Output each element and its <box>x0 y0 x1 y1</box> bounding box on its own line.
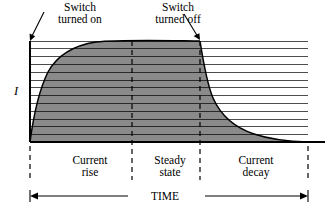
annotation-switch-turned-off: Switch turned off <box>139 1 217 26</box>
region-label-current-rise: Current rise <box>47 154 133 179</box>
region-label-steady-state: Steady state <box>137 154 203 179</box>
x-axis-label: TIME <box>133 190 197 202</box>
transient-current-figure: Switch turned on Switch turned off I Cur… <box>0 0 331 216</box>
switch-on-arrow-icon <box>30 12 44 41</box>
y-axis-label: I <box>9 85 23 99</box>
plot-area <box>0 0 331 216</box>
time-axis-arrow-right <box>205 190 308 202</box>
annotation-switch-turned-on: Switch turned on <box>44 1 116 26</box>
time-axis-arrow-left <box>30 190 128 202</box>
region-label-current-decay: Current decay <box>208 154 304 179</box>
